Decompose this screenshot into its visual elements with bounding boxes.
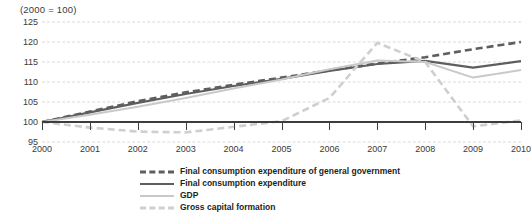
legend-swatch-icon bbox=[140, 202, 174, 213]
legend-item[interactable]: Gross capital formation bbox=[140, 202, 470, 213]
x-axis-tick bbox=[90, 122, 91, 130]
y-axis-tick-label: 110 bbox=[24, 77, 38, 87]
legend-item-label: Final consumption expenditure bbox=[180, 178, 306, 189]
x-axis-tick bbox=[377, 122, 378, 130]
legend-item-label: Gross capital formation bbox=[180, 202, 275, 213]
x-axis-tick-label: 2002 bbox=[128, 144, 148, 154]
x-axis-tick-label: 2009 bbox=[463, 144, 483, 154]
legend-item-label: Final consumption expenditure of general… bbox=[180, 166, 400, 177]
series-line bbox=[42, 43, 521, 133]
plot-grid bbox=[42, 22, 521, 142]
legend-swatch-icon bbox=[140, 190, 174, 201]
y-axis-tick-label: 115 bbox=[24, 57, 38, 67]
x-axis-tick bbox=[234, 122, 235, 130]
legend-swatch-icon bbox=[140, 166, 174, 177]
x-axis-tick-label: 2007 bbox=[367, 144, 387, 154]
x-axis-tick-label: 2000 bbox=[32, 144, 52, 154]
y-axis-tick-label: 105 bbox=[23, 97, 38, 107]
x-axis-tick-label: 2006 bbox=[319, 144, 339, 154]
x-axis-tick bbox=[42, 122, 43, 130]
x-axis-labels: 2000200120022003200420052006200720082009… bbox=[42, 144, 521, 160]
x-axis-tick bbox=[473, 122, 474, 130]
x-axis-tick-label: 2003 bbox=[176, 144, 196, 154]
legend-item-label: GDP bbox=[180, 190, 198, 201]
series-line bbox=[42, 60, 521, 122]
y-axis-tick-label: 120 bbox=[23, 37, 38, 47]
x-axis-tick-label: 2004 bbox=[224, 144, 244, 154]
x-axis-tick bbox=[521, 122, 522, 130]
x-axis-tick bbox=[329, 122, 330, 130]
legend-swatch-icon bbox=[140, 178, 174, 189]
y-axis-labels: 95100105110115120125 bbox=[0, 22, 40, 142]
plot-area: 95100105110115120125 bbox=[0, 22, 525, 142]
x-axis-tick-label: 2010 bbox=[511, 144, 531, 154]
x-axis-tick-label: 2005 bbox=[271, 144, 291, 154]
x-axis-tick-label: 2001 bbox=[80, 144, 100, 154]
x-axis-tick bbox=[138, 122, 139, 130]
legend-item[interactable]: Final consumption expenditure bbox=[140, 178, 470, 189]
x-axis-tick bbox=[186, 122, 187, 130]
chart-legend: Final consumption expenditure of general… bbox=[140, 166, 470, 214]
y-axis-tick-label: 125 bbox=[23, 17, 38, 27]
x-axis-tick bbox=[425, 122, 426, 130]
y-axis-tick-label: 100 bbox=[23, 117, 38, 127]
x-axis-tick bbox=[282, 122, 283, 130]
x-axis-tick-label: 2008 bbox=[415, 144, 435, 154]
chart-axis-note: (2000 = 100) bbox=[20, 4, 77, 15]
legend-item[interactable]: Final consumption expenditure of general… bbox=[140, 166, 470, 177]
legend-item[interactable]: GDP bbox=[140, 190, 470, 201]
